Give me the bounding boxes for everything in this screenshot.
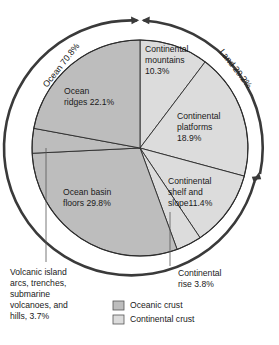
label-continental-mountains-line2: mountains — [145, 55, 185, 65]
pie-chart-figure: Continental mountains 10.3%Continental p… — [0, 0, 279, 345]
label-continental-shelf-line1: Continental — [168, 176, 212, 186]
pie-slices: Continental mountains 10.3%Continental p… — [32, 40, 248, 256]
label-ocean-ridges-line1: Ocean — [64, 86, 90, 96]
label-volcanic-line5: hills, 3.7% — [10, 311, 50, 321]
label-ocean-ridges-line2: ridges 22.1% — [64, 97, 115, 107]
label-volcanic-line4: volcanoes, and — [10, 300, 68, 310]
label-ocean-basin-floors-line2: floors 29.8% — [63, 198, 111, 208]
label-ocean-basin-floors: Ocean basin floors 29.8% — [63, 187, 111, 208]
label-continental-mountains-line1: Continental — [145, 44, 189, 54]
crust-distribution-pie-chart: Continental mountains 10.3%Continental p… — [0, 0, 279, 345]
label-continental-platforms-line2: platforms — [177, 122, 212, 132]
label-continental-rise-line1: Continental — [178, 268, 222, 278]
label-continental-rise-line2: rise 3.8% — [178, 279, 214, 289]
label-continental-mountains-line3: 10.3% — [145, 66, 170, 76]
label-volcanic-line3: submarine — [10, 289, 50, 299]
label-volcanic-line1: Volcanic island — [10, 267, 67, 277]
label-ocean-basin-floors-line1: Ocean basin — [63, 187, 111, 197]
label-continental-platforms-line1: Continental — [177, 111, 221, 121]
label-continental-shelf-line2: shelf and — [168, 187, 203, 197]
label-continental-shelf-line3: slope11.4% — [168, 198, 213, 208]
label-continental-platforms-line3: 18.9% — [177, 133, 202, 143]
legend-label-oceanic-crust: Oceanic crust — [130, 300, 183, 310]
legend-swatch-oceanic-crust — [113, 301, 124, 310]
legend-swatch-continental-crust — [113, 315, 124, 324]
legend-label-continental-crust: Continental crust — [130, 314, 195, 324]
label-volcanic-line2: arcs, trenches, — [10, 278, 66, 288]
